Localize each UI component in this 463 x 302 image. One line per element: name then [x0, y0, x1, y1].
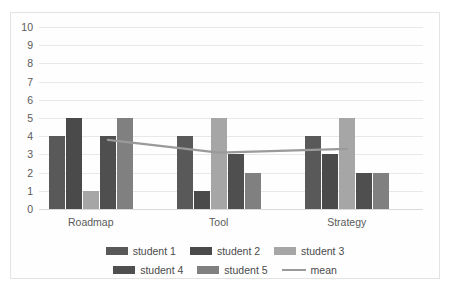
- legend-label: student 4: [140, 264, 183, 276]
- legend-label: student 1: [133, 245, 176, 257]
- y-axis-tick-label: 3: [27, 148, 33, 160]
- bar-student-2-roadmap: [66, 118, 82, 209]
- legend-swatch: [197, 266, 219, 274]
- y-axis-tick-label: 0: [27, 203, 33, 215]
- legend-swatch: [274, 247, 296, 255]
- legend-label: student 3: [301, 245, 344, 257]
- y-axis-tick-label: 1: [27, 185, 33, 197]
- bar-student-3-tool: [211, 118, 227, 209]
- gridline: [39, 27, 423, 28]
- legend-row: student 4student 5mean: [106, 264, 344, 276]
- legend-item-student-5[interactable]: student 5: [197, 264, 267, 276]
- legend-swatch: [106, 247, 128, 255]
- y-axis-tick-label: 10: [21, 21, 33, 33]
- y-axis-tick-label: 9: [27, 39, 33, 51]
- bar-student-5-strategy: [373, 173, 389, 209]
- bar-student-4-tool: [228, 154, 244, 209]
- bar-student-3-strategy: [339, 118, 355, 209]
- chart-container: 109876543210 RoadmapToolStrategy student…: [10, 12, 440, 279]
- bar-student-5-roadmap: [117, 118, 133, 209]
- gridline: [39, 118, 423, 119]
- y-axis-tick-label: 7: [27, 76, 33, 88]
- axis-baseline: [39, 209, 423, 210]
- bar-student-3-roadmap: [83, 191, 99, 209]
- legend-label: student 5: [224, 264, 267, 276]
- gridline: [39, 100, 423, 101]
- x-axis-label-tool: Tool: [209, 216, 228, 228]
- chart-legend: student 1student 2student 3student 4stud…: [11, 245, 439, 276]
- y-axis-tick-label: 2: [27, 167, 33, 179]
- legend-row: student 1student 2student 3: [99, 245, 352, 257]
- legend-label: mean: [311, 264, 337, 276]
- legend-item-student-1[interactable]: student 1: [106, 245, 176, 257]
- x-axis-label-roadmap: Roadmap: [68, 216, 114, 228]
- legend-item-student-3[interactable]: student 3: [274, 245, 344, 257]
- bar-student-1-tool: [177, 136, 193, 209]
- bar-student-5-tool: [245, 173, 261, 209]
- legend-label: student 2: [217, 245, 260, 257]
- gridline: [39, 45, 423, 46]
- legend-swatch: [113, 266, 135, 274]
- y-axis-tick-label: 4: [27, 130, 33, 142]
- bar-student-2-tool: [194, 191, 210, 209]
- gridline: [39, 82, 423, 83]
- x-axis-label-strategy: Strategy: [327, 216, 366, 228]
- bar-student-4-strategy: [356, 173, 372, 209]
- bar-student-1-roadmap: [49, 136, 65, 209]
- bar-student-2-strategy: [322, 154, 338, 209]
- legend-item-student-4[interactable]: student 4: [113, 264, 183, 276]
- y-axis-tick-label: 5: [27, 112, 33, 124]
- legend-item-mean[interactable]: mean: [282, 264, 337, 276]
- bar-student-4-roadmap: [100, 136, 116, 209]
- bar-student-1-strategy: [305, 136, 321, 209]
- gridline: [39, 63, 423, 64]
- legend-swatch: [190, 247, 212, 255]
- legend-line-marker: [282, 269, 306, 271]
- y-axis-tick-label: 6: [27, 94, 33, 106]
- y-axis-tick-label: 8: [27, 57, 33, 69]
- legend-item-student-2[interactable]: student 2: [190, 245, 260, 257]
- plot-area: 109876543210 RoadmapToolStrategy: [39, 27, 423, 209]
- gridline: [39, 136, 423, 137]
